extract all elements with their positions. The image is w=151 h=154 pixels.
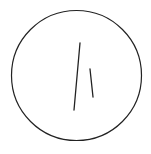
clock-svg bbox=[0, 0, 151, 154]
hour-hand bbox=[90, 69, 93, 97]
minute-hand bbox=[74, 43, 80, 110]
clock-diagram bbox=[0, 0, 151, 154]
